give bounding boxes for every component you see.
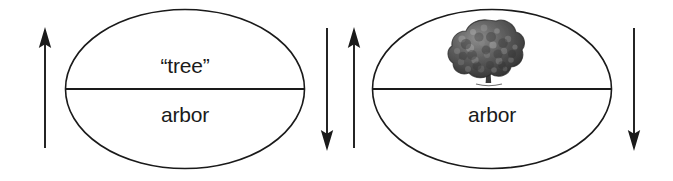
sign-left-lower-label: arbor [64,104,306,125]
tree-foliage [448,20,524,78]
sign-ellipse-left [64,8,306,170]
arrow-down-right-icon [617,24,651,154]
tree-ground-shadow [476,84,502,86]
diagram-canvas: “tree” arbor [0,0,673,181]
sign-right-lower-label: arbor [371,104,613,125]
arrow-up-middle-icon [337,24,371,154]
arrow-up-left-icon [28,24,62,154]
sign-left-upper-label: “tree” [64,55,306,76]
tree-illustration-icon [446,17,532,89]
